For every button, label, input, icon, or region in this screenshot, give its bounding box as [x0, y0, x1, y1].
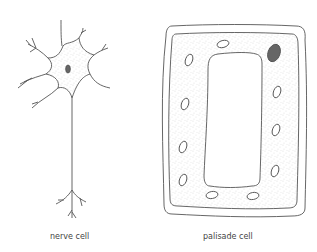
- nerve-cell-label: nerve cell: [50, 232, 89, 241]
- vacuole: [204, 53, 262, 188]
- palisade-cell-label: palisade cell: [203, 232, 253, 241]
- palisade-cell-drawing: [162, 25, 306, 217]
- nerve-nucleus: [66, 65, 71, 73]
- nerve-cell-drawing: [18, 20, 110, 218]
- cells-diagram: [0, 0, 317, 252]
